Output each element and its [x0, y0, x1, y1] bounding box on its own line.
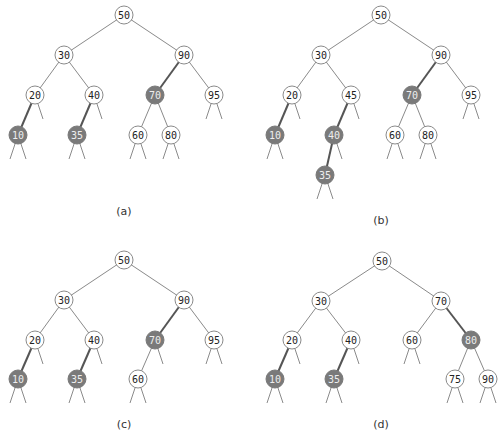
tree-node: 35 — [68, 126, 86, 144]
tree-edge — [321, 261, 382, 301]
tree-node: 60 — [403, 331, 421, 349]
tree-node: 90 — [175, 46, 193, 64]
tree-node: 95 — [205, 86, 223, 104]
node-key: 60 — [406, 335, 418, 346]
tree-panel-b: 503090204570951040608035(b) — [266, 6, 480, 227]
panel-caption: (a) — [116, 205, 131, 218]
panel-caption: (b) — [373, 214, 389, 227]
tree-edge — [321, 15, 381, 55]
tree-node: 10 — [266, 370, 284, 388]
node-key: 30 — [58, 50, 70, 61]
tree-edge — [124, 15, 184, 55]
tree-figure: 5030902040709510356080(a)503090204570951… — [0, 0, 501, 440]
tree-panel-c: 50309020407095103560(c) — [9, 251, 223, 431]
tree-node: 70 — [146, 86, 164, 104]
node-key: 90 — [482, 374, 494, 385]
tree-node: 30 — [312, 46, 330, 64]
node-key: 10 — [12, 374, 24, 385]
tree-node: 10 — [266, 126, 284, 144]
node-key: 90 — [178, 295, 190, 306]
node-key: 45 — [345, 90, 357, 101]
tree-node: 30 — [55, 291, 73, 309]
tree-node: 50 — [115, 251, 133, 269]
node-key: 90 — [178, 50, 190, 61]
node-key: 20 — [286, 335, 298, 346]
panel-caption: (d) — [373, 418, 389, 431]
tree-node: 40 — [325, 126, 343, 144]
tree-panel-d: 5030702040608010357590(d) — [266, 252, 497, 431]
tree-node: 80 — [419, 126, 437, 144]
panel-caption: (c) — [117, 418, 132, 431]
node-key: 30 — [58, 295, 70, 306]
tree-node: 70 — [146, 331, 164, 349]
node-key: 40 — [88, 90, 100, 101]
tree-node: 20 — [283, 86, 301, 104]
tree-node: 35 — [325, 370, 343, 388]
tree-node: 20 — [283, 331, 301, 349]
tree-node: 30 — [55, 46, 73, 64]
node-key: 60 — [132, 374, 144, 385]
tree-node: 40 — [85, 331, 103, 349]
node-key: 30 — [315, 50, 327, 61]
node-key: 20 — [29, 90, 41, 101]
tree-node: 35 — [316, 166, 334, 184]
node-key: 75 — [449, 374, 461, 385]
node-key: 10 — [12, 130, 24, 141]
tree-node: 80 — [462, 331, 480, 349]
node-key: 80 — [465, 335, 477, 346]
tree-node: 90 — [479, 370, 497, 388]
tree-edge — [124, 260, 184, 300]
tree-node: 95 — [462, 86, 480, 104]
node-key: 50 — [375, 10, 387, 21]
node-key: 60 — [132, 130, 144, 141]
node-key: 70 — [406, 90, 418, 101]
node-key: 35 — [71, 374, 83, 385]
tree-node: 10 — [9, 126, 27, 144]
node-key: 95 — [208, 90, 220, 101]
node-key: 50 — [118, 10, 130, 21]
tree-node: 40 — [85, 86, 103, 104]
tree-node: 60 — [129, 370, 147, 388]
node-key: 35 — [328, 374, 340, 385]
tree-node: 40 — [342, 331, 360, 349]
tree-node: 50 — [115, 6, 133, 24]
tree-node: 35 — [68, 370, 86, 388]
tree-node: 50 — [373, 252, 391, 270]
tree-node: 90 — [175, 291, 193, 309]
node-key: 70 — [435, 296, 447, 307]
tree-node: 45 — [342, 86, 360, 104]
node-key: 70 — [149, 90, 161, 101]
tree-node: 70 — [403, 86, 421, 104]
node-key: 80 — [165, 130, 177, 141]
tree-node: 60 — [129, 126, 147, 144]
node-key: 50 — [376, 256, 388, 267]
node-key: 35 — [319, 170, 331, 181]
tree-node: 10 — [9, 370, 27, 388]
tree-node: 20 — [26, 331, 44, 349]
node-key: 95 — [208, 335, 220, 346]
node-key: 70 — [149, 335, 161, 346]
tree-node: 60 — [386, 126, 404, 144]
node-key: 30 — [315, 296, 327, 307]
node-key: 95 — [465, 90, 477, 101]
tree-node: 80 — [162, 126, 180, 144]
node-key: 35 — [71, 130, 83, 141]
node-key: 40 — [88, 335, 100, 346]
node-key: 20 — [286, 90, 298, 101]
node-key: 90 — [435, 50, 447, 61]
node-key: 20 — [29, 335, 41, 346]
tree-node: 50 — [372, 6, 390, 24]
node-key: 10 — [269, 130, 281, 141]
tree-node: 95 — [205, 331, 223, 349]
tree-node: 30 — [312, 292, 330, 310]
tree-node: 20 — [26, 86, 44, 104]
tree-node: 90 — [432, 46, 450, 64]
tree-panel-a: 5030902040709510356080(a) — [9, 6, 223, 218]
tree-edge — [382, 261, 441, 301]
node-key: 10 — [269, 374, 281, 385]
node-key: 40 — [328, 130, 340, 141]
tree-node: 75 — [446, 370, 464, 388]
node-key: 60 — [389, 130, 401, 141]
node-key: 80 — [422, 130, 434, 141]
tree-edge — [64, 15, 124, 55]
